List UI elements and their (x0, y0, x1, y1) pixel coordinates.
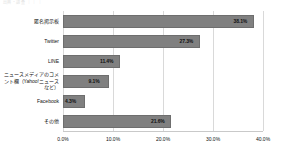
bar-value-label: 11.4% (100, 58, 113, 64)
figure-header-note: 出典・調査 ｜ ｜ ｜ (3, 0, 43, 6)
bar-row: 9.1% (63, 75, 263, 88)
category-label: Facebook (1, 98, 59, 105)
bar-row: 27.3% (63, 35, 263, 48)
bar[interactable] (63, 15, 254, 28)
gridline-20.0 (163, 11, 164, 131)
bar-value-label: 21.6% (151, 118, 165, 124)
gridline-0.0 (63, 11, 64, 131)
category-label: その他 (1, 118, 59, 125)
bar-value-label: 4.3% (65, 98, 76, 104)
bar-row: 38.1% (63, 15, 263, 28)
bar-value-label: 9.1% (89, 78, 100, 84)
category-label: ニュースメディアのコメント欄（Yahoo!ニュースなど） (1, 71, 59, 91)
bar-value-label: 27.3% (180, 38, 194, 44)
x-tick-label: 0.0% (57, 136, 68, 142)
plot-area: 38.1%27.3%11.4%9.1%4.3%21.6% (63, 11, 263, 131)
bar-value-label: 38.1% (234, 18, 248, 24)
gridline-40.0 (263, 11, 264, 131)
x-tick-label: 20.0% (156, 136, 170, 142)
bar[interactable] (63, 75, 109, 88)
category-label: 匿名掲示板 (1, 18, 59, 25)
gridline-10.0 (113, 11, 114, 131)
gridline-30.0 (213, 11, 214, 131)
category-label: Twitter (1, 38, 59, 45)
bar-row: 4.3% (63, 95, 263, 108)
x-axis-line (63, 131, 263, 132)
bar-row: 11.4% (63, 55, 263, 68)
bar-row: 21.6% (63, 115, 263, 128)
x-tick-label: 30.0% (206, 136, 220, 142)
x-tick-label: 10.0% (106, 136, 120, 142)
category-label: LINE (1, 58, 59, 65)
chart-figure: 出典・調査 ｜ ｜ ｜ 38.1%27.3%11.4%9.1%4.3%21.6%… (0, 0, 291, 155)
x-tick-label: 40.0% (256, 136, 270, 142)
